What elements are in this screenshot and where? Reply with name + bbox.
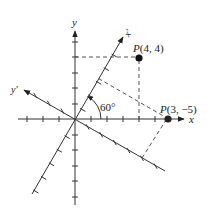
projection-lines-p3m5 bbox=[99, 79, 167, 159]
y-prime-axis-label: y′ bbox=[10, 84, 18, 95]
y-axis-label: y bbox=[71, 16, 77, 28]
point-p-3-minus5 bbox=[164, 115, 171, 122]
point-p-4-4 bbox=[135, 54, 142, 61]
point-label-p-4-4: P(4, 4) bbox=[132, 42, 164, 55]
x-prime-axis bbox=[32, 37, 123, 194]
rotated-axes-diagram: y x x′ y′ 60° P(4, 4) P(3, −5) bbox=[0, 0, 210, 209]
diagram-canvas: y x x′ y′ 60° P(4, 4) P(3, −5) bbox=[0, 0, 210, 209]
angle-label: 60° bbox=[100, 101, 115, 113]
point-label-p-3-minus5: P(3, −5) bbox=[159, 103, 197, 116]
